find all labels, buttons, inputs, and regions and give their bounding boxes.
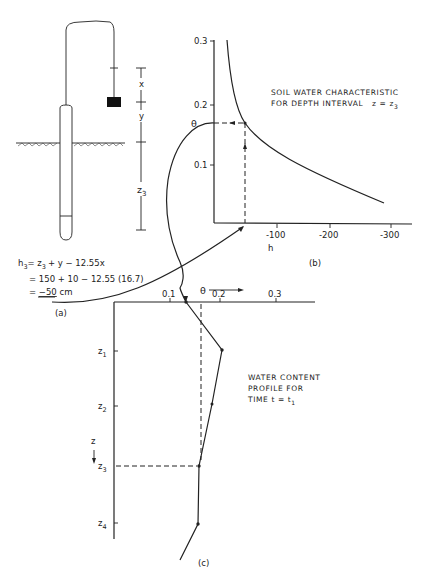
b-xtick-label: -100 — [266, 230, 285, 240]
b-x-axis-label: h — [268, 243, 273, 253]
b-lookup-point — [243, 121, 246, 124]
mercury-reservoir — [107, 97, 121, 107]
equation-line-3: = −50 cm — [29, 287, 72, 297]
c-xtick-label: 0.3 — [268, 289, 282, 299]
c-xtick-label: 0.2 — [212, 289, 226, 299]
b-characteristic-curve — [227, 40, 384, 203]
b-ytick-label: 0.3 — [194, 36, 208, 46]
c-ztick-label-z4: z4 — [98, 518, 107, 531]
b-xtick-label: -200 — [319, 230, 338, 240]
panel-b-label: (b) — [309, 258, 321, 268]
c-profile-point — [211, 403, 214, 406]
c-z-arrow-icon — [92, 458, 96, 464]
equation-line-1: h3= z3+ y − 12.55x — [18, 258, 105, 271]
b-left-arrow-icon — [229, 121, 235, 125]
c-profile-point — [184, 300, 187, 303]
h-transfer-arrow-icon — [238, 226, 244, 232]
dim-label-x: x — [139, 79, 144, 89]
c-xtick-label: 0.1 — [162, 289, 176, 299]
c-title-line-2: PROFILE FOR — [248, 384, 304, 393]
c-title-line-3: TIME t = t1 — [247, 395, 296, 406]
b-title-condition: z = z3 — [372, 99, 398, 110]
c-ztick-label-z1: z1 — [98, 346, 107, 359]
b-ytick-label: 0.2 — [194, 100, 208, 110]
c-title-line-1: WATER CONTENT — [248, 373, 321, 382]
b-title-line-2: FOR DEPTH INTERVAL — [271, 99, 363, 108]
c-z-axis-label: z — [91, 436, 96, 446]
c-theta-arrow-icon — [238, 288, 244, 292]
equation-line-2: = 150 + 10 − 12.55 (16.7) — [29, 274, 144, 284]
c-profile-point — [197, 464, 200, 467]
c-ztick-label-z3: z3 — [98, 461, 107, 474]
b-x-axis — [214, 223, 412, 224]
tensiometer-tube — [66, 21, 114, 105]
panel-a-label: (a) — [55, 308, 67, 318]
c-profile-point — [196, 522, 199, 525]
b-ytick-label: 0.1 — [194, 160, 208, 170]
figure-canvas: x y z3 h3= z3+ y − 12.55x = 150 + 10 − 1… — [0, 0, 425, 579]
dim-label-y: y — [139, 111, 144, 121]
c-theta-label: θ — [200, 285, 206, 296]
panel-c-profile-chart: θ 0.1 0.2 0.3 z1 z2 z3 z4 z WATER CONTEN… — [91, 285, 321, 568]
b-up-arrow-icon — [243, 143, 247, 149]
panel-b-characteristic-chart: 0.3 0.2 0.1 -100 -200 -300 h (b) θ SOIL … — [191, 36, 412, 268]
b-xtick-label: -300 — [380, 230, 399, 240]
tensiometer-body — [60, 105, 72, 240]
theta-transfer-curve — [167, 123, 214, 302]
panel-c-label: (c) — [198, 558, 209, 568]
c-ztick-label-z2: z2 — [98, 401, 107, 414]
c-profile-point — [220, 348, 223, 351]
panel-a-tensiometer: x y z3 h3= z3+ y − 12.55x = 150 + 10 − 1… — [16, 21, 148, 318]
b-title-line-1: SOIL WATER CHARACTERISTIC — [271, 88, 399, 97]
